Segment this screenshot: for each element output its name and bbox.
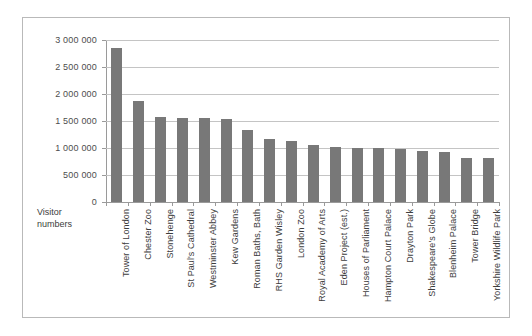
x-axis-tick-mark xyxy=(324,203,325,206)
x-axis-tick-mark xyxy=(434,203,435,206)
x-axis-tick-mark xyxy=(412,203,413,206)
x-axis-tick-mark xyxy=(455,203,456,206)
bar xyxy=(286,141,297,202)
gridline xyxy=(106,40,499,41)
bar xyxy=(395,149,406,202)
x-axis-tick-mark xyxy=(106,203,107,206)
x-axis-tick-mark xyxy=(477,203,478,206)
x-axis-tick-mark xyxy=(172,203,173,206)
bar xyxy=(308,145,319,202)
category-axis-label: St Paul's Cathedral xyxy=(186,209,196,288)
bar xyxy=(417,151,428,202)
x-axis-tick-mark xyxy=(346,203,347,206)
x-axis-tick-mark xyxy=(128,203,129,206)
category-axis-label: Yorkshire Wildlife Park xyxy=(492,209,502,301)
category-axis-label: Shakespeare's Globe xyxy=(427,209,437,297)
y-axis-tick-label: 3 000 000 xyxy=(25,36,97,45)
category-axis-label: Stonehenge xyxy=(165,209,175,259)
category-axis-label: Kew Gardens xyxy=(230,209,240,265)
x-axis-tick-mark xyxy=(215,203,216,206)
gridline xyxy=(106,67,499,68)
bar xyxy=(155,117,166,202)
bar xyxy=(199,118,210,202)
bar xyxy=(439,152,450,202)
bar xyxy=(352,148,363,202)
category-axis-label: London Zoo xyxy=(296,209,306,258)
plot-area xyxy=(106,40,499,202)
category-axis-label: Tower of London xyxy=(121,209,131,277)
bar xyxy=(177,118,188,202)
y-axis-title: Visitor numbers xyxy=(37,206,101,230)
bar xyxy=(264,139,275,202)
bar xyxy=(242,130,253,202)
bar xyxy=(461,158,472,202)
x-axis-tick-mark xyxy=(193,203,194,206)
y-axis-title-line-1: Visitor xyxy=(37,206,101,218)
bar xyxy=(133,101,144,202)
category-axis-label: Drayton Park xyxy=(405,209,415,263)
bar xyxy=(373,148,384,202)
y-axis-tick-label: 500 000 xyxy=(25,171,97,180)
category-axis-label: Blenheim Palace xyxy=(448,209,458,278)
category-axis-label: Tower Bridge xyxy=(470,209,480,263)
bar xyxy=(221,119,232,202)
x-axis-tick-mark xyxy=(259,203,260,206)
category-axis-label: Houses of Parliament xyxy=(361,209,371,297)
y-axis-tick-label: 2 000 000 xyxy=(25,90,97,99)
bar xyxy=(330,147,341,202)
chart-figure-frame: Visitor numbers 3 000 0002 500 0002 000 … xyxy=(22,17,510,318)
category-axis-label: Chester Zoo xyxy=(143,209,153,260)
bar xyxy=(111,48,122,202)
y-axis-tick-label: 0 xyxy=(25,198,97,207)
x-axis-tick-mark xyxy=(281,203,282,206)
category-axis-label: Hampton Court Palace xyxy=(383,209,393,302)
x-axis-tick-mark xyxy=(237,203,238,206)
category-axis-label: RHS Garden Wisley xyxy=(274,209,284,291)
category-axis-label: Westminster Abbey xyxy=(208,209,218,288)
x-axis-tick-mark xyxy=(390,203,391,206)
x-axis-tick-mark xyxy=(499,203,500,206)
category-axis-label: Eden Project (est.) xyxy=(339,209,349,285)
bar xyxy=(483,158,494,202)
y-axis-tick-label: 1 500 000 xyxy=(25,117,97,126)
gridline xyxy=(106,94,499,95)
y-axis-tick-label: 1 000 000 xyxy=(25,144,97,153)
category-axis-label: Roman Baths, Bath xyxy=(252,209,262,289)
x-axis-tick-mark xyxy=(303,203,304,206)
category-axis-label: Royal Academy of Arts xyxy=(317,209,327,302)
y-axis-title-line-2: numbers xyxy=(37,218,101,230)
x-axis-tick-mark xyxy=(150,203,151,206)
y-axis-tick-label: 2 500 000 xyxy=(25,63,97,72)
x-axis-tick-mark xyxy=(368,203,369,206)
